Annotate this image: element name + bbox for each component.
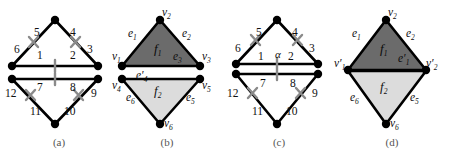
edge-label-e6: e6 — [126, 92, 135, 104]
edge-label-e5: e5 — [186, 92, 195, 104]
edge-bottom-right — [55, 79, 98, 124]
vertex-top — [273, 16, 281, 24]
vertex-v3 — [196, 62, 204, 70]
panel-c: 5 4 6 3 1 2 7 8 12 9 11 10 α (c) — [222, 0, 336, 152]
vertex-label-v1-prime: v′1 — [334, 58, 345, 70]
vertex-label-v4: v4 — [112, 80, 121, 92]
edge-label-e4-prime: e′4 — [136, 70, 147, 82]
panel-d: v2 v′1 v′2 v6 e1 e2 e′1 e6 e5 f1 f2 (d) — [334, 0, 450, 152]
vertex-label-v3: v3 — [202, 51, 211, 63]
vertex-right-upper — [314, 60, 322, 68]
caption-a: (a) — [0, 136, 118, 148]
vertex-label-v2: v2 — [162, 7, 171, 19]
face-label-f1: f1 — [154, 42, 161, 55]
figure-container: 5 4 6 3 1 2 7 8 12 9 11 10 (a) — [0, 0, 450, 152]
edge-label-3: 3 — [309, 43, 315, 55]
alpha-label: α — [275, 49, 281, 60]
vertex-left-lower — [232, 70, 240, 78]
caption-b: (b) — [112, 136, 222, 148]
edge-label-1: 1 — [37, 50, 43, 62]
face-label-f1: f1 — [380, 42, 387, 55]
vertex-left-upper — [8, 62, 16, 70]
edge-label-2: 2 — [70, 50, 76, 62]
edge-label-e2: e2 — [182, 28, 191, 40]
vertex-label-v1: v1 — [112, 51, 121, 63]
edge-label-1: 1 — [258, 51, 264, 63]
edge-label-2: 2 — [288, 51, 294, 63]
edge-label-9: 9 — [312, 88, 318, 100]
edge-label-6: 6 — [235, 43, 241, 55]
edge-label-7: 7 — [260, 78, 266, 90]
vertex-label-v2-prime: v′2 — [426, 58, 437, 70]
caption-c: (c) — [222, 136, 336, 148]
vertex-left-upper — [232, 60, 240, 68]
edge-label-e1-prime: e′1 — [398, 53, 409, 65]
vertex-top — [51, 16, 59, 24]
vertex-bottom — [51, 120, 59, 128]
edge-label-e1: e1 — [352, 28, 361, 40]
vertex-label-v6: v6 — [164, 118, 173, 130]
caption-d: (d) — [334, 136, 450, 148]
face-label-f2: f2 — [154, 84, 161, 97]
panel-c-graphic — [222, 0, 336, 152]
panel-b: v2 v1 v3 v4 v5 v6 e1 e2 e3 e′4 e6 e5 f1 … — [112, 0, 222, 152]
edge-label-5: 5 — [34, 27, 40, 39]
edge-label-5: 5 — [256, 27, 262, 39]
vertex-right-upper — [94, 62, 102, 70]
edge-label-10: 10 — [286, 106, 298, 118]
edge-label-6: 6 — [14, 44, 20, 56]
edge-label-4: 4 — [292, 27, 298, 39]
edge-label-4: 4 — [70, 27, 76, 39]
edge-label-11: 11 — [30, 106, 41, 118]
vertex-bottom — [273, 120, 281, 128]
edge-label-8: 8 — [70, 82, 76, 94]
edge-label-e1: e1 — [128, 28, 137, 40]
vertex-v6 — [156, 120, 164, 128]
vertex-label-v2: v2 — [388, 7, 397, 19]
edge-label-12: 12 — [227, 88, 239, 100]
edge-label-12: 12 — [5, 88, 17, 100]
vertex-right-lower — [94, 75, 102, 83]
edge-label-8: 8 — [290, 78, 296, 90]
face-label-f2: f2 — [380, 80, 387, 93]
edge-label-7: 7 — [37, 82, 43, 94]
edge-label-e6: e6 — [350, 92, 359, 104]
vertex-right-lower — [314, 70, 322, 78]
edge-label-9: 9 — [91, 88, 97, 100]
vertex-v6 — [382, 120, 390, 128]
vertex-left-lower — [8, 75, 16, 83]
vertex-label-v6: v6 — [390, 118, 399, 130]
edge-label-e3: e3 — [173, 51, 182, 63]
edge-label-e2: e2 — [406, 28, 415, 40]
vertex-label-v5: v5 — [202, 80, 211, 92]
panel-a: 5 4 6 3 1 2 7 8 12 9 11 10 (a) — [0, 0, 118, 152]
edge-label-11: 11 — [252, 106, 263, 118]
panel-a-graphic — [0, 0, 118, 152]
edge-label-3: 3 — [87, 44, 93, 56]
edge-label-e5: e5 — [410, 92, 419, 104]
edge-label-10: 10 — [64, 106, 76, 118]
